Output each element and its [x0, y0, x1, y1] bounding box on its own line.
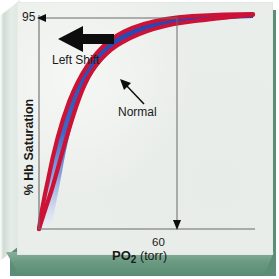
x-axis-title-prefix: PO: [112, 248, 131, 263]
y-axis-title: % Hb Saturation: [22, 82, 36, 212]
figure-root: 95 60 PO2 (torr) % Hb Saturation Left Sh…: [0, 0, 279, 279]
left-shift-label: Left Shift: [52, 53, 99, 67]
plot-canvas: [17, 2, 273, 255]
x-axis-title-unit: (torr): [140, 249, 167, 263]
y-reference-arrowhead: [37, 14, 46, 22]
normal-curve: [39, 15, 253, 229]
x-axis-title: PO2 (torr): [112, 248, 167, 265]
normal-curve-label: Normal: [118, 105, 157, 119]
y-axis-max-label: 95: [22, 10, 35, 24]
normal-pointer-line: [125, 84, 144, 104]
x-axis-tick-label: 60: [152, 236, 165, 248]
x-axis-title-subscript: 2: [131, 254, 137, 265]
